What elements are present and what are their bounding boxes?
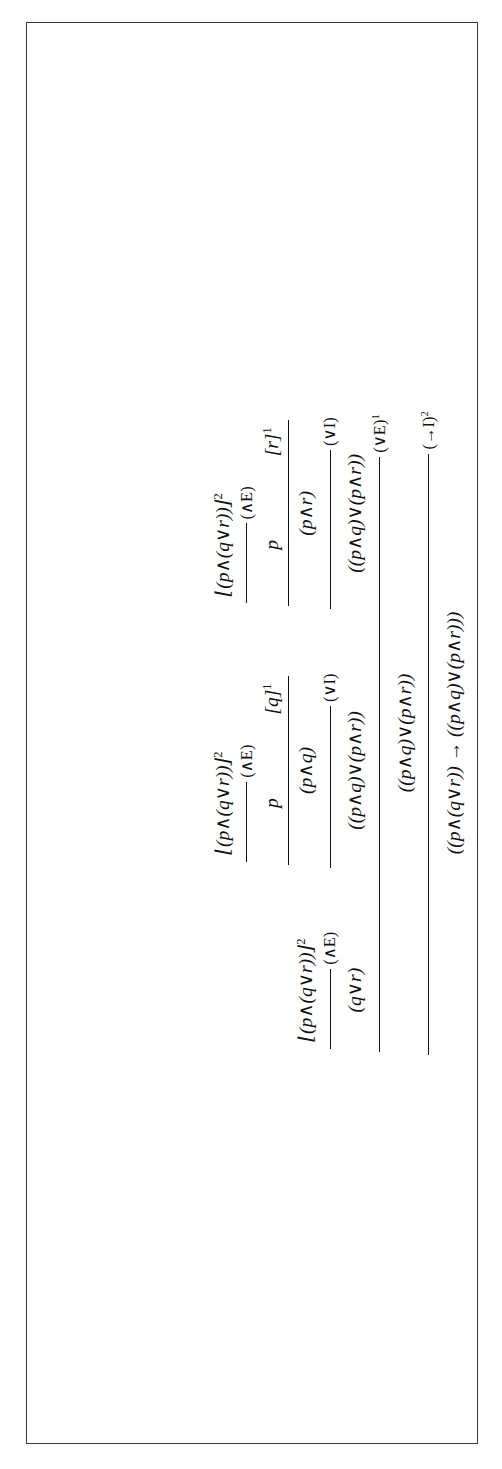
or-elim-conclusion: ((p∧q)∨(p∧r)) xyxy=(391,669,418,798)
inference-bar xyxy=(288,676,289,864)
temp-assumption-mark-r: 1 xyxy=(260,427,274,433)
and-elim-right-inference: ⌊(p∧(q∨r))⌋2 (∧E) p xyxy=(210,486,285,603)
or-intro-mid-bar-row: (∨I) xyxy=(319,673,341,867)
and-elim-mid-bar-row: (∧E) xyxy=(236,745,258,862)
or-intro-right-bar-row: (∨I) xyxy=(319,417,341,609)
and-elim-right-conclusion: p xyxy=(258,535,285,555)
discharged-assumption-mid: ⌊(p∧(q∨r))⌋2 xyxy=(210,748,236,859)
branch-major-premise: ⌊(p∧(q∨r))⌋2 (∧E) (q∨r) xyxy=(293,932,368,1049)
inference-bar xyxy=(330,450,331,610)
rule-mark-implication-intro: 2 xyxy=(418,411,429,416)
inference-bar xyxy=(288,420,289,606)
rule-label-implication-intro: (→I)2 xyxy=(418,411,440,453)
rule-label-and-elim-mid: (∧E) xyxy=(236,745,258,782)
and-intro-right-conclusion: (p∧r) xyxy=(292,486,319,541)
or-elimination-premises: ⌊(p∧(q∨r))⌋2 (∧E) (q∨r) xyxy=(210,414,369,1051)
discharged-assumption-left: ⌊(p∧(q∨r))⌋2 xyxy=(293,935,319,1046)
or-elim-bar-row: (∨E)1 xyxy=(369,414,391,1051)
inference-bar xyxy=(246,782,247,862)
or-intro-mid-conclusion: ((p∧q)∨(p∧r)) xyxy=(341,706,368,835)
inference-bar xyxy=(428,454,429,1055)
and-intro-mid-premises: ⌊(p∧(q∨r))⌋2 (∧E) p xyxy=(210,676,285,864)
page-canvas: ⌊(p∧(q∨r))⌋2 (∧E) (q∨r) xyxy=(0,0,502,1469)
or-intro-right-conclusion: ((p∧q)∨(p∧r)) xyxy=(341,449,368,578)
branch-left-disjunct: ⌊(p∧(q∨r))⌋2 (∧E) p xyxy=(210,673,369,867)
rule-label-or-intro-right: (∨I) xyxy=(319,417,341,450)
discharged-assumption-right: ⌊(p∧(q∨r))⌋2 xyxy=(210,489,236,600)
assumption-mark-left: 2 xyxy=(294,939,308,945)
and-elim-mid-inference: ⌊(p∧(q∨r))⌋2 (∧E) p xyxy=(210,745,285,862)
rule-mark-or-elim: 1 xyxy=(369,414,380,419)
and-intro-mid-bar-row xyxy=(285,676,292,864)
rule-label-or-intro-mid: (∨I) xyxy=(319,673,341,706)
rule-label-and-elim-left: (∧E) xyxy=(319,932,341,969)
or-intro-right-premises: ⌊(p∧(q∨r))⌋2 (∧E) p xyxy=(210,417,319,609)
and-intro-right-bar-row xyxy=(285,420,292,606)
inference-bar xyxy=(330,969,331,1049)
temp-assumption-q: [q]1 xyxy=(259,679,285,718)
temp-assumption-r: [r]1 xyxy=(259,423,285,460)
proof-final-conclusion: ((p∧(q∨r)) → ((p∧q)∨(p∧r))) xyxy=(440,607,467,859)
branch-right-disjunct: ⌊(p∧(q∨r))⌋2 (∧E) p xyxy=(210,417,369,609)
and-intro-mid-conclusion: (p∧q) xyxy=(292,742,319,799)
assumption-mark-right: 2 xyxy=(210,493,224,499)
and-elim-left-premises: ⌊(p∧(q∨r))⌋2 xyxy=(293,932,319,1049)
rotated-figure-stage: ⌊(p∧(q∨r))⌋2 (∧E) (q∨r) xyxy=(37,53,467,1413)
or-intro-mid-premises: ⌊(p∧(q∨r))⌋2 (∧E) p xyxy=(210,673,319,867)
inference-bar xyxy=(379,457,380,1052)
and-intro-mid-inference: ⌊(p∧(q∨r))⌋2 (∧E) p xyxy=(210,676,319,864)
inference-bar xyxy=(330,706,331,868)
implication-intro-bar-row: (→I)2 xyxy=(418,411,440,1054)
and-elim-right-bar-row: (∧E) xyxy=(236,486,258,603)
proof-tree-root: ⌊(p∧(q∨r))⌋2 (∧E) (q∨r) xyxy=(37,53,467,1413)
and-intro-right-inference: ⌊(p∧(q∨r))⌋2 (∧E) p xyxy=(210,420,319,606)
implication-intro-inference: ⌊(p∧(q∨r))⌋2 (∧E) (q∨r) xyxy=(210,411,467,1054)
and-elim-right-premises: ⌊(p∧(q∨r))⌋2 xyxy=(210,486,236,603)
rule-label-and-elim-right: (∧E) xyxy=(236,486,258,523)
and-elim-mid-conclusion: p xyxy=(258,793,285,813)
inference-bar xyxy=(246,523,247,603)
figure-frame: ⌊(p∧(q∨r))⌋2 (∧E) (q∨r) xyxy=(26,22,478,1444)
or-elimination-inference: ⌊(p∧(q∨r))⌋2 (∧E) (q∨r) xyxy=(210,414,418,1051)
implication-intro-premises: ⌊(p∧(q∨r))⌋2 (∧E) (q∨r) xyxy=(210,411,418,1054)
rule-label-or-elim: (∨E)1 xyxy=(369,414,391,456)
temp-assumption-mark-q: 1 xyxy=(260,683,274,689)
assumption-mark-mid: 2 xyxy=(210,752,224,758)
and-elim-left-bar-row: (∧E) xyxy=(319,932,341,1049)
and-intro-right-premises: ⌊(p∧(q∨r))⌋2 (∧E) p xyxy=(210,420,285,606)
and-elim-mid-premises: ⌊(p∧(q∨r))⌋2 xyxy=(210,745,236,862)
and-elim-left-conclusion: (q∨r) xyxy=(341,963,368,1018)
